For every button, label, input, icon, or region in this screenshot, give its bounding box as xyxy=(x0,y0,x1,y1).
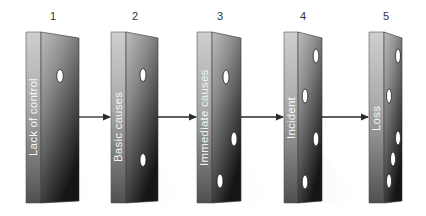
hole-icon xyxy=(313,49,319,63)
hole-icon xyxy=(140,154,146,167)
hole-icon xyxy=(223,70,229,84)
hole-icon xyxy=(302,175,308,189)
hole-icon xyxy=(391,152,396,166)
block-number-5: 5 xyxy=(376,10,396,22)
domino-diagram: 1 2 3 4 5 Lack of control Basic causes I… xyxy=(0,0,426,216)
hole-icon xyxy=(313,132,319,146)
block-number-2: 2 xyxy=(125,10,145,22)
block-number-1: 1 xyxy=(43,10,63,22)
hole-icon xyxy=(217,174,223,188)
hole-icon xyxy=(396,131,401,145)
hole-icon xyxy=(231,132,237,146)
hole-icon xyxy=(387,89,392,103)
block-label-2: Basic causes xyxy=(112,92,124,162)
block-number-3: 3 xyxy=(210,10,230,22)
hole-icon xyxy=(140,69,146,82)
hole-icon xyxy=(387,174,392,188)
hole-icon xyxy=(57,70,64,83)
block-label-1: Lack of control xyxy=(27,78,39,156)
hole-icon xyxy=(396,49,401,63)
hole-icon xyxy=(302,89,308,103)
diagram-canvas xyxy=(0,0,426,216)
block-label-5: Loss xyxy=(370,106,382,131)
block-label-4: Incident xyxy=(285,97,297,139)
block-number-4: 4 xyxy=(293,10,313,22)
block-label-3: Immediate causes xyxy=(198,69,210,166)
